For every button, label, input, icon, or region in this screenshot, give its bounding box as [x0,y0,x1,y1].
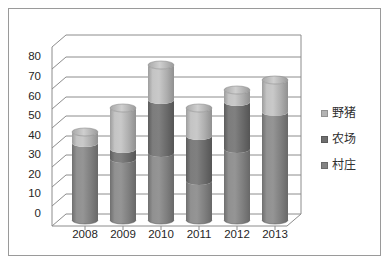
legend-item-boar: 野猪 [321,102,379,124]
legend-label-village: 村庄 [332,159,356,172]
legend-label-boar: 野猪 [332,107,356,120]
y-tick-0: 0 [9,208,41,219]
plot-area: 80 70 60 50 40 30 20 10 0 2008 2009 2010… [9,9,382,257]
y-tick-70: 70 [9,71,41,82]
legend-label-farm: 农场 [332,133,356,146]
x-axis-labels: 2008 2009 2010 2011 2012 2013 [9,228,382,250]
bar-2012 [224,86,250,224]
bar-2008 [72,128,98,224]
bar-2009 [110,104,136,224]
x-tick-2013: 2013 [253,228,297,241]
bar-2013 [262,76,288,224]
legend-swatch-icon-farm [321,136,328,143]
legend-item-farm: 农场 [321,128,379,150]
chart-screenshot: 80 70 60 50 40 30 20 10 0 2008 2009 2010… [0,0,391,269]
chart-legend: 野猪 农场 村庄 [321,102,379,180]
y-tick-10: 10 [9,188,41,199]
y-axis-labels: 80 70 60 50 40 30 20 10 0 [9,9,41,257]
legend-swatch-icon-village [321,162,328,169]
y-tick-20: 20 [9,169,41,180]
y-tick-30: 30 [9,149,41,160]
legend-item-village: 村庄 [321,154,379,176]
y-tick-50: 50 [9,110,41,121]
y-tick-40: 40 [9,130,41,141]
bar-2010 [148,61,174,224]
chart-frame: 80 70 60 50 40 30 20 10 0 2008 2009 2010… [8,8,381,256]
y-tick-60: 60 [9,91,41,102]
bar-2011 [186,104,212,224]
y-tick-80: 80 [9,51,41,62]
legend-swatch-icon-boar [321,110,328,117]
